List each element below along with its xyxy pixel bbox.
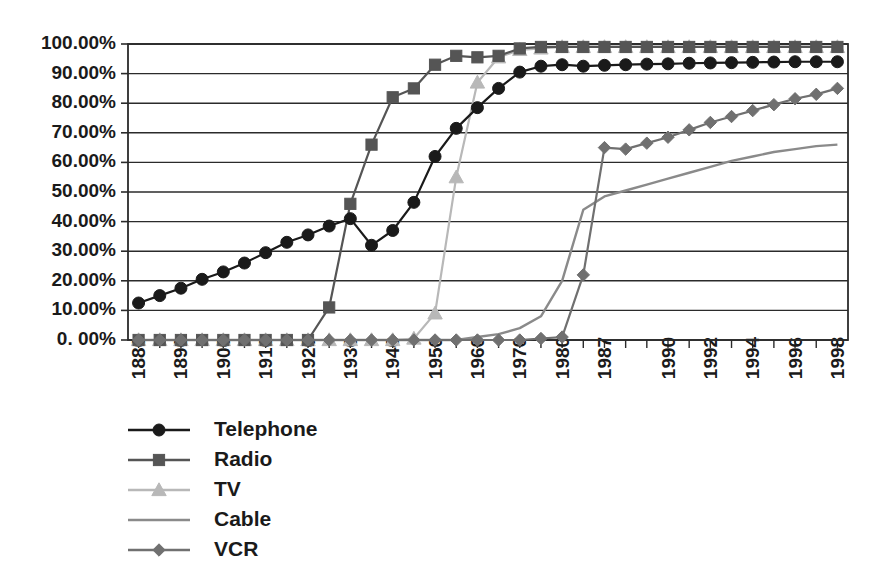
data-point: [302, 229, 314, 241]
data-point: [662, 58, 674, 70]
data-point: [344, 213, 356, 225]
y-axis-tick-label: 30.00%: [52, 239, 117, 260]
data-point: [535, 60, 547, 72]
data-point: [577, 60, 589, 72]
data-point: [810, 56, 822, 68]
data-point: [323, 220, 335, 232]
data-point: [747, 104, 759, 116]
y-axis-tick-label: 20.00%: [52, 269, 117, 290]
data-point: [471, 102, 483, 114]
x-axis-tick-label: 1998: [827, 337, 848, 379]
data-point: [683, 124, 695, 136]
legend-item-cable[interactable]: Cable: [128, 507, 271, 530]
data-point: [598, 141, 610, 153]
data-point: [450, 334, 462, 346]
data-point: [726, 41, 737, 52]
data-point: [662, 41, 673, 52]
legend-label: TV: [214, 477, 241, 500]
data-point: [725, 110, 737, 122]
x-axis-tick-label: 1987: [594, 337, 615, 379]
data-point: [493, 50, 504, 61]
data-point: [747, 41, 758, 52]
data-point: [619, 143, 631, 155]
data-point: [324, 302, 335, 313]
data-point: [599, 41, 610, 52]
data-point: [133, 297, 145, 309]
y-axis-ticks: [121, 44, 128, 340]
series-radio: [133, 41, 843, 345]
y-axis-tick-label: 70.00%: [52, 121, 117, 142]
data-point: [598, 59, 610, 71]
data-point: [450, 122, 462, 134]
y-axis-tick-label: 80.00%: [52, 91, 117, 112]
legend-label: VCR: [214, 537, 258, 560]
legend-item-telephone[interactable]: Telephone: [128, 417, 317, 440]
legend-item-tv[interactable]: TV: [128, 477, 241, 500]
data-point: [175, 282, 187, 294]
data-point: [408, 83, 419, 94]
x-axis-tick-label: 1996: [785, 337, 806, 379]
data-point: [747, 56, 759, 68]
y-axis-tick-label: 40.00%: [52, 210, 117, 231]
legend-marker: [153, 454, 164, 465]
data-point: [705, 41, 716, 52]
y-axis-tick-label: 100.00%: [41, 32, 116, 53]
data-point: [577, 269, 589, 281]
data-point: [196, 273, 208, 285]
legend-label: Telephone: [214, 417, 317, 440]
data-point: [472, 52, 483, 63]
data-point: [726, 57, 738, 69]
legend-label: Cable: [214, 507, 271, 530]
data-point: [641, 137, 653, 149]
data-point: [493, 82, 505, 94]
data-series-layer: [131, 40, 844, 346]
data-point: [238, 257, 250, 269]
legend-label: Radio: [214, 447, 272, 470]
gridlines: [128, 44, 848, 340]
x-axis-tick-label: 1992: [700, 337, 721, 379]
legend-item-radio[interactable]: Radio: [128, 447, 272, 470]
data-point: [387, 92, 398, 103]
legend-item-vcr[interactable]: VCR: [128, 537, 258, 560]
data-point: [704, 57, 716, 69]
data-point: [408, 196, 420, 208]
x-axis-tick-label: 1994: [742, 336, 763, 379]
x-axis-labels: 1880189019001910192019301940195019601970…: [128, 336, 848, 379]
data-point: [154, 290, 166, 302]
y-axis-tick-label: 0. 00%: [57, 328, 116, 349]
data-point: [831, 82, 843, 94]
series-vcr: [132, 82, 843, 346]
data-point: [768, 56, 780, 68]
data-point: [789, 56, 801, 68]
data-point: [810, 88, 822, 100]
data-point: [704, 116, 716, 128]
data-point: [535, 332, 547, 344]
data-point: [578, 41, 589, 52]
data-point: [684, 41, 695, 52]
y-axis-tick-label: 10.00%: [52, 298, 117, 319]
data-point: [768, 41, 779, 52]
data-point: [620, 59, 632, 71]
data-point: [449, 170, 463, 183]
data-point: [832, 41, 843, 52]
data-point: [557, 41, 568, 52]
data-point: [366, 239, 378, 251]
data-point: [514, 43, 525, 54]
data-point: [683, 57, 695, 69]
series-telephone: [133, 56, 844, 309]
data-point: [831, 56, 843, 68]
y-axis-tick-label: 50.00%: [52, 180, 117, 201]
data-point: [281, 236, 293, 248]
y-axis-tick-label: 90.00%: [52, 62, 117, 83]
legend-marker: [153, 424, 165, 436]
adoption-curves-chart: 100.00%90.00%80.00%70.00%60.00%50.00%40.…: [0, 0, 881, 561]
y-axis-tick-label: 60.00%: [52, 150, 117, 171]
data-point: [451, 50, 462, 61]
chart-container: 100.00%90.00%80.00%70.00%60.00%50.00%40.…: [0, 0, 881, 561]
data-point: [345, 198, 356, 209]
y-axis-labels: 100.00%90.00%80.00%70.00%60.00%50.00%40.…: [41, 32, 116, 349]
data-point: [768, 98, 780, 110]
data-point: [641, 58, 653, 70]
data-point: [514, 66, 526, 78]
data-point: [260, 247, 272, 259]
